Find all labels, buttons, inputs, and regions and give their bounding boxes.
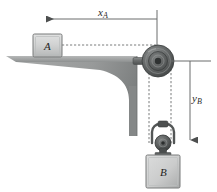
mechanics-diagram: xA yB A B: [0, 0, 217, 192]
block-a-label: A: [44, 40, 51, 52]
shackle-crown: [158, 121, 168, 127]
dimension-y-b: [168, 61, 211, 140]
label-y-b: yB: [192, 92, 202, 104]
block-b-label: B: [160, 166, 167, 178]
label-y-b-subscript: B: [197, 97, 202, 106]
support-bracket: [6, 56, 137, 136]
bracket-web: [16, 62, 137, 136]
small-sheave-hub: [161, 141, 165, 145]
diagram-canvas: [0, 0, 217, 192]
label-x-a-subscript: A: [103, 11, 108, 20]
bracket-column-shade: [129, 86, 137, 136]
pulley-hub: [155, 58, 161, 64]
label-x-a: xA: [98, 6, 108, 18]
shelf-top-surface: [6, 56, 137, 62]
